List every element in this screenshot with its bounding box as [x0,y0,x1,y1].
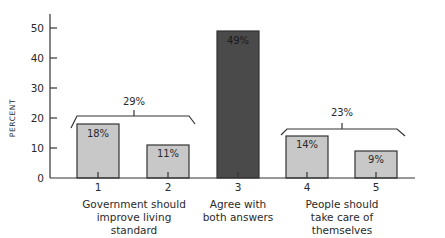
group-label-people: People should take care of themselves [305,198,378,236]
group-label-line: Government should [82,198,186,210]
group-label-line: People should [305,198,378,210]
bar-1-value: 18% [87,128,109,139]
bar-chart: PERCENT 0 10 20 30 40 50 18% 11% [0,0,445,238]
y-tick-0: 0 [37,172,44,184]
x-tick-2: 2 [165,181,172,193]
x-tick-3: 3 [235,181,242,193]
bracket-group-2-label: 23% [331,107,353,118]
x-tick-1: 1 [95,181,102,193]
x-tick-4: 4 [304,181,311,193]
group-label-line: themselves [312,224,372,236]
y-tick-labels: 0 10 20 30 40 50 [31,22,44,184]
y-tick-50: 50 [31,22,44,34]
group-label-line: Agree with [210,198,266,210]
bar-3-value: 49% [227,35,249,46]
y-tick-30: 30 [31,82,44,94]
bar-2-value: 11% [157,148,179,159]
group-label-line: take care of [311,211,374,223]
bar-3 [217,31,259,178]
y-tick-40: 40 [31,52,44,64]
bar-4-value: 14% [296,139,318,150]
y-axis-label: PERCENT [8,99,17,137]
group-label-line: standard [111,224,158,236]
bracket-group-1-label: 29% [123,96,145,107]
x-tick-labels: 1 2 3 4 5 [95,181,380,193]
group-label-line: improve living [97,211,172,223]
y-tick-10: 10 [31,142,44,154]
y-ticks [50,28,57,148]
group-label-line: both answers [203,211,274,223]
group-label-both: Agree with both answers [203,198,274,223]
y-tick-20: 20 [31,112,44,124]
x-tick-5: 5 [373,181,380,193]
group-label-government: Government should improve living standar… [82,198,186,236]
bar-5-value: 9% [368,154,384,165]
bracket-group-2 [281,123,405,136]
